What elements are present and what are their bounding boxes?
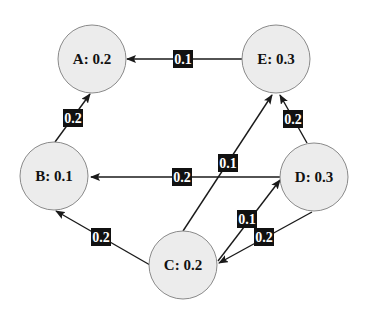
- edge-weight-text: 0.1: [238, 212, 256, 227]
- node-label: C: 0.2: [164, 257, 202, 273]
- node-e: E: 0.3: [242, 25, 310, 93]
- edge-weight-label: 0.2: [254, 228, 274, 246]
- weighted-directed-graph: A: 0.2E: 0.3B: 0.1D: 0.3C: 0.2 0.10.20.2…: [0, 0, 366, 314]
- edge-weight-text: 0.2: [173, 170, 191, 185]
- edge-weight-text: 0.1: [219, 156, 237, 171]
- node-b: B: 0.1: [20, 142, 88, 210]
- node-label: E: 0.3: [257, 51, 295, 67]
- edge-weight-label: 0.1: [237, 210, 257, 228]
- edge-weight-text: 0.2: [92, 230, 110, 245]
- edge-weight-label: 0.1: [173, 50, 193, 68]
- edge-weight-text: 0.2: [64, 111, 82, 126]
- node-label: A: 0.2: [73, 51, 111, 67]
- node-label: D: 0.3: [295, 169, 333, 185]
- edge-weight-text: 0.2: [284, 112, 302, 127]
- edge-weight-label: 0.2: [172, 168, 192, 186]
- node-c: C: 0.2: [149, 231, 217, 299]
- graph-canvas: A: 0.2E: 0.3B: 0.1D: 0.3C: 0.2 0.10.20.2…: [0, 0, 366, 314]
- edge-weight-label: 0.2: [63, 109, 83, 127]
- edge-weight-label: 0.2: [283, 110, 303, 128]
- node-d: D: 0.3: [280, 143, 348, 211]
- node-label: B: 0.1: [35, 168, 73, 184]
- edge-weight-label: 0.1: [218, 154, 238, 172]
- edge-weight-label: 0.2: [91, 228, 111, 246]
- edge-weight-text: 0.1: [174, 52, 192, 67]
- edge-weight-text: 0.2: [255, 230, 273, 245]
- node-a: A: 0.2: [58, 25, 126, 93]
